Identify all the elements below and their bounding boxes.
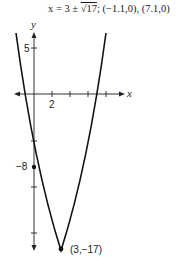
vertex-point [59,247,64,252]
y-axis-down-arrow-icon [32,245,37,251]
y-axis-up-arrow-icon [32,32,37,38]
y-tick-label-5: 5 [24,43,30,54]
y-intercept-point [32,165,36,169]
parabola-chart: x y 2 5 −8 (3,−17) [0,0,182,265]
x-axis-label: x [126,87,132,99]
parabola-curve [16,33,106,250]
x-tick-label-2: 2 [49,99,55,110]
vertex-label: (3,−17) [70,244,102,255]
x-axis-right-arrow-icon [119,92,125,97]
y-axis-label: y [30,18,36,30]
y-tick-label-neg8: −8 [16,161,28,172]
x-axis-left-arrow-icon [14,92,20,97]
